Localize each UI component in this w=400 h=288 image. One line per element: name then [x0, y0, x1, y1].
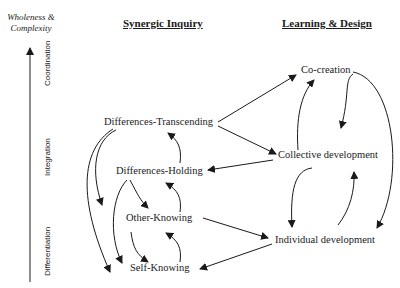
level-differentiation: Differentiation	[43, 227, 52, 276]
node-co-creation: Co-creation	[301, 64, 351, 75]
node-self-knowing: Self-Knowing	[130, 262, 190, 273]
axis-title-line2: Complexity	[2, 23, 60, 34]
heading-synergic-inquiry: Synergic Inquiry	[123, 17, 203, 29]
node-individual-development: Individual development	[275, 234, 375, 245]
level-integration: Integration	[43, 138, 52, 176]
node-differences-holding: Differences-Holding	[116, 165, 203, 176]
node-differences-transcending: Differences-Transcending	[104, 116, 213, 127]
heading-learning-design: Learning & Design	[282, 17, 372, 29]
level-coordination: Coordination	[43, 41, 52, 86]
axis-title-line1: Wholeness &	[2, 12, 60, 23]
axis-title: Wholeness & Complexity	[2, 12, 60, 34]
node-collective-development: Collective development	[278, 149, 378, 160]
node-other-knowing: Other-Knowing	[126, 212, 192, 223]
